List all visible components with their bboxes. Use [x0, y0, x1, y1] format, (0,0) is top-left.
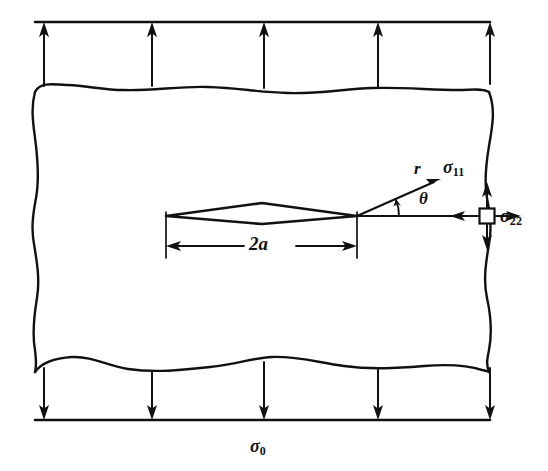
plate-outline: [33, 84, 493, 372]
stress-22-label: σ22: [500, 207, 522, 227]
plate-left-edge: [33, 92, 39, 372]
bottom-load-arrow: [39, 368, 49, 420]
bottom-load-group: [35, 362, 495, 420]
top-load-arrow: [373, 22, 383, 88]
diagram-canvas: [0, 0, 548, 471]
plate-bottom-edge: [35, 357, 489, 372]
top-load-arrow: [39, 22, 49, 86]
crack-length-label: 2a: [249, 234, 268, 253]
radius-label: r: [414, 160, 421, 177]
bottom-load-arrow: [259, 362, 269, 420]
top-load-group: [35, 22, 495, 88]
stress-element-square: [480, 209, 495, 224]
crack-shape: [166, 203, 357, 224]
fracture-mechanics-figure: σ0 σ11 σ22 r θ 2a: [0, 0, 548, 471]
bottom-load-arrow: [373, 370, 383, 420]
top-load-arrow: [147, 22, 157, 86]
crack-tip-coordinate-system: [357, 179, 464, 216]
stress-11-label: σ11: [443, 158, 464, 178]
bottom-load-arrow: [147, 372, 157, 420]
remote-stress-label: σ0: [250, 437, 266, 457]
plate-top-edge: [35, 84, 489, 93]
top-load-arrow: [259, 22, 269, 88]
top-load-arrow: [485, 22, 495, 84]
angle-label: θ: [419, 190, 428, 207]
bottom-load-arrow: [485, 368, 495, 420]
